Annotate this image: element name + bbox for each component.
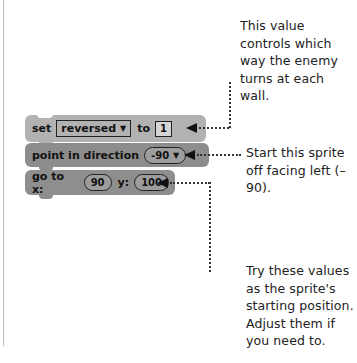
direction-dropdown[interactable]: -90 ▼: [144, 147, 186, 164]
dotted-connector: [229, 82, 231, 128]
set-variable-block[interactable]: set reversed ▼ to 1: [25, 115, 206, 142]
value-input[interactable]: 1: [155, 121, 172, 137]
block-notch: [37, 114, 53, 118]
block-tab: [39, 195, 53, 199]
go-to-x-keyword: go to x:: [32, 170, 79, 196]
annotation-position: Try these values as the sprite's startin…: [246, 262, 356, 350]
dropdown-arrow-icon: ▼: [120, 121, 126, 136]
go-to-xy-block[interactable]: go to x: 90 y: 100: [25, 170, 175, 195]
page-edge-line: [3, 0, 4, 346]
arrow-left-icon: [184, 150, 195, 160]
dotted-connector: [170, 182, 210, 184]
point-in-direction-keyword: point in direction: [32, 149, 139, 162]
dotted-connector: [209, 182, 211, 272]
point-in-direction-block[interactable]: point in direction -90 ▼: [25, 143, 209, 167]
variable-name: reversed: [61, 121, 116, 136]
arrow-left-icon: [157, 178, 168, 188]
arrow-left-icon: [186, 123, 197, 133]
set-keyword: set: [32, 122, 51, 135]
annotation-reversed: This value controls which way the enemy …: [240, 17, 355, 105]
dotted-connector: [199, 127, 229, 129]
dotted-connector: [197, 154, 241, 156]
dropdown-arrow-icon: ▼: [173, 148, 179, 163]
x-input[interactable]: 90: [84, 174, 112, 191]
annotation-direction: Start this sprite off facing left (–90).: [246, 144, 356, 197]
direction-value: -90: [151, 148, 169, 163]
variable-dropdown[interactable]: reversed ▼: [56, 120, 131, 137]
y-keyword: y:: [118, 176, 130, 189]
to-keyword: to: [137, 122, 150, 135]
